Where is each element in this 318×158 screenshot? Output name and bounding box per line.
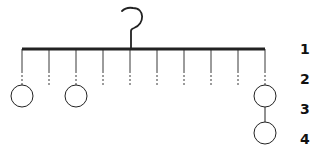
hanger-hook xyxy=(122,8,142,49)
level-label-2: 2 xyxy=(300,71,310,87)
circle-weight xyxy=(65,85,87,107)
circle-weight xyxy=(254,85,276,107)
level-label-3: 3 xyxy=(300,101,310,117)
circle-weight xyxy=(254,122,276,144)
strings xyxy=(22,49,265,85)
mobile-diagram: 1 2 3 4 xyxy=(0,0,318,158)
level-labels: 1 2 3 4 xyxy=(300,41,310,147)
circles xyxy=(11,85,276,144)
level-label-1: 1 xyxy=(300,41,310,57)
hook-icon xyxy=(122,8,142,49)
circle-weight xyxy=(11,85,33,107)
level-label-4: 4 xyxy=(300,131,310,147)
